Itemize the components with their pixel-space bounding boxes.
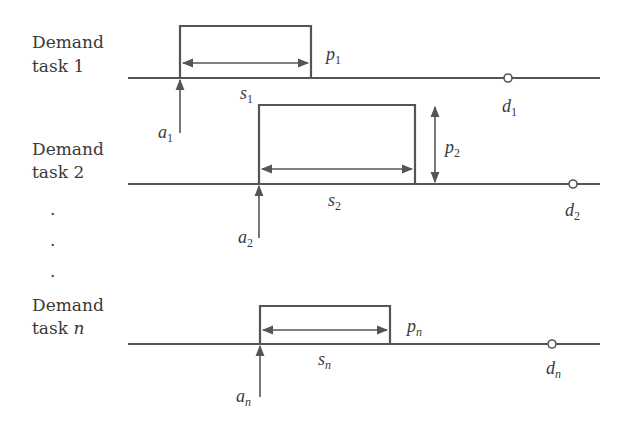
task-1-deadline-marker (504, 74, 512, 82)
task-1-row: Demand task 1 p1 s1 a1 d1 (32, 26, 600, 145)
ellipsis-dot-3: . (50, 261, 55, 281)
task-2-deadline-label: d2 (565, 200, 580, 223)
task-n-proc-label: pn (405, 316, 422, 339)
task-2-label-line1: Demand (32, 139, 104, 159)
ellipsis-dot-1: . (50, 199, 55, 219)
task-n-arrival-label: an (236, 386, 251, 409)
task-n-label-line1: Demand (32, 295, 104, 315)
task-2-deadline-marker (569, 180, 577, 188)
task-n-deadline-marker (548, 340, 556, 348)
task-1-label-line2: task 1 (32, 56, 84, 76)
task-2-processing-box (259, 105, 415, 184)
task-2-label-line2: task 2 (32, 162, 84, 182)
task-n-start-label: sn (318, 349, 331, 372)
task-n-label-line2: task n (32, 318, 84, 338)
task-2-arrival-label: a2 (238, 227, 253, 250)
task-1-proc-label: p1 (324, 44, 341, 67)
task-1-start-label: s1 (240, 83, 253, 106)
task-2-row: Demand task 2 p2 s2 a2 d2 (32, 105, 600, 250)
task-1-deadline-label: d1 (502, 96, 517, 119)
demand-task-timeline-diagram: Demand task 1 p1 s1 a1 d1 Demand task 2 … (0, 0, 635, 432)
ellipsis-vertical: . . . (50, 199, 55, 281)
task-1-label-line1: Demand (32, 32, 104, 52)
task-1-arrival-label: a1 (158, 122, 173, 145)
task-1-processing-box (180, 26, 311, 78)
task-2-proc-label: p2 (443, 137, 460, 160)
task-n-deadline-label: dn (546, 358, 561, 381)
task-n-processing-box (260, 306, 390, 344)
task-2-start-label: s2 (328, 190, 341, 213)
task-n-row: Demand task n pn sn an dn (32, 295, 600, 409)
ellipsis-dot-2: . (50, 230, 55, 250)
